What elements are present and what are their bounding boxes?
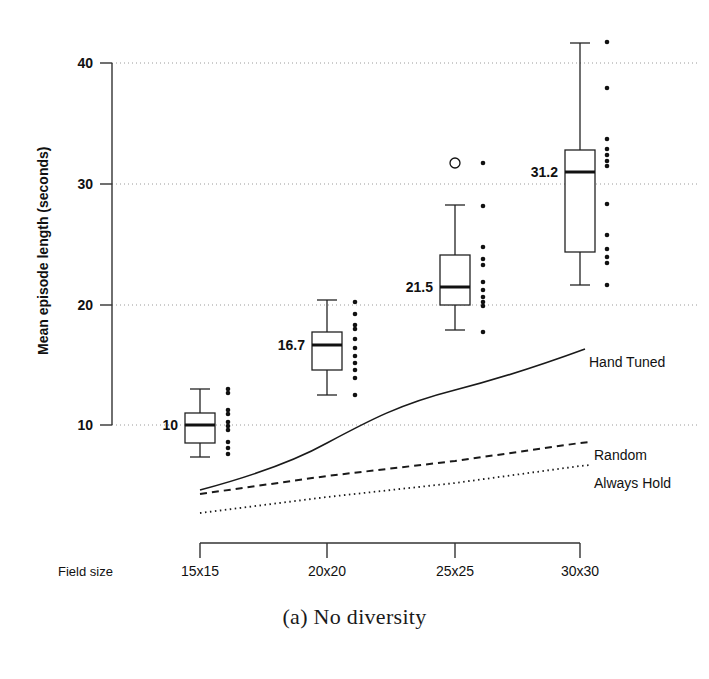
- y-axis-title: Mean episode length (seconds): [35, 147, 51, 355]
- series-label-always-hold: Always Hold: [594, 475, 671, 491]
- y-tick-label-10: 10: [77, 417, 93, 433]
- strip-points-15x15: [226, 387, 231, 457]
- median-label-30x30: 31.2: [531, 164, 558, 180]
- random-line: [200, 442, 590, 494]
- x-tick-label-15x15: 15x15: [181, 563, 219, 579]
- boxplot-30x30: 31.2: [531, 40, 610, 288]
- box-15x15: [185, 413, 215, 443]
- x-tick-label-20x20: 20x20: [308, 563, 346, 579]
- boxplot-15x15: 10: [162, 387, 230, 457]
- figure-caption: (a) No diversity: [0, 604, 709, 630]
- series-label-random: Random: [594, 447, 647, 463]
- x-axis: 15x15 20x20 25x25 30x30 Field size: [58, 543, 599, 579]
- boxplot-chart: 40 30 20 10 Mean episode length (seconds…: [0, 0, 709, 679]
- y-tick-label-20: 20: [77, 297, 93, 313]
- y-tick-label-30: 30: [77, 176, 93, 192]
- x-axis-title: Field size: [58, 564, 113, 579]
- box-30x30: [565, 150, 595, 252]
- gridlines: [112, 63, 697, 425]
- x-tick-label-30x30: 30x30: [561, 563, 599, 579]
- strip-points-25x25: [481, 161, 486, 335]
- box-20x20: [312, 332, 342, 370]
- boxplot-25x25: 21.5: [406, 158, 486, 334]
- boxplot-20x20: 16.7: [278, 300, 358, 398]
- median-label-25x25: 21.5: [406, 279, 433, 295]
- median-label-20x20: 16.7: [278, 337, 305, 353]
- figure-no-diversity: 40 30 20 10 Mean episode length (seconds…: [0, 0, 709, 679]
- box-25x25: [440, 255, 470, 305]
- strip-points-30x30: [605, 40, 610, 288]
- y-tick-label-40: 40: [77, 55, 93, 71]
- strip-points-20x20: [353, 300, 358, 398]
- series-label-hand-tuned: Hand Tuned: [589, 354, 665, 370]
- outlier-25x25: [450, 158, 460, 168]
- median-label-15x15: 10: [162, 417, 178, 433]
- y-axis: 40 30 20 10: [77, 55, 112, 433]
- x-tick-label-25x25: 25x25: [436, 563, 474, 579]
